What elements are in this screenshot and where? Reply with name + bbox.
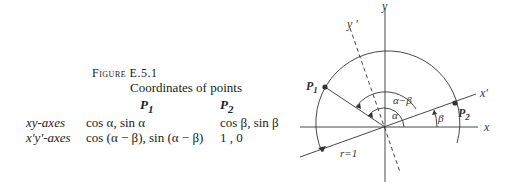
label-p2: P2 (458, 106, 470, 122)
label-x-prime: x′ (479, 86, 488, 100)
arc-alpha (368, 108, 404, 127)
arrow-r (318, 146, 326, 152)
label-alpha: α (392, 109, 398, 121)
label-alpha-minus-beta: α−β (393, 94, 412, 106)
point-p2 (452, 100, 457, 105)
point-p1 (322, 84, 327, 89)
label-y-prime: y ′ (346, 17, 358, 31)
label-p1: P1 (306, 79, 318, 95)
label-radius: r=1 (340, 147, 357, 159)
label-x: x (483, 120, 490, 134)
rotation-diagram: y y ′ x x′ P1 P2 α−β α β r=1 (0, 0, 513, 182)
label-y: y (381, 0, 388, 13)
x-prime-axis (300, 94, 476, 157)
label-beta: β (437, 112, 444, 124)
arrow-beta (432, 110, 437, 115)
